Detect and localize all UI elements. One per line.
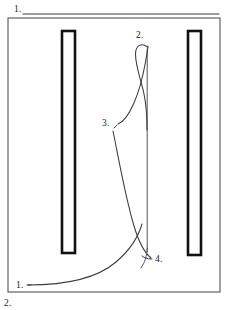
figure-container: 1. 2. 3. 4. 1. 2. bbox=[0, 0, 227, 310]
callout-label-cross-4: 4. bbox=[155, 254, 163, 264]
left-bar bbox=[62, 31, 75, 253]
callout-label-loop-2: 2. bbox=[136, 30, 144, 40]
callout-label-bottom-1: 1. bbox=[16, 280, 24, 290]
callout-label-bend-3: 3. bbox=[102, 118, 110, 128]
callout-label-outside-2: 2. bbox=[4, 298, 12, 308]
callout-label-top-1: 1. bbox=[14, 4, 22, 14]
right-bar bbox=[188, 31, 201, 255]
technical-figure-svg: 1. 2. 3. 4. 1. 2. bbox=[0, 0, 227, 310]
